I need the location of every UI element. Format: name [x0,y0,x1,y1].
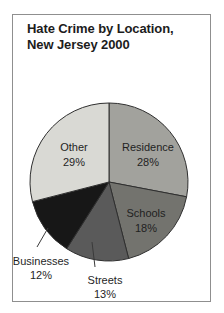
slice-label-streets-value: 13% [75,287,135,301]
slice-label-residence-name: Residence [116,140,180,155]
slice-label-businesses-name: Businesses [8,254,74,268]
slice-label-streets-name: Streets [75,273,135,287]
leader-line-businesses [37,228,48,247]
slice-label-streets: Streets 13% [75,273,135,301]
slice-label-schools: Schools 18% [116,206,176,236]
pie-slices [30,103,188,261]
slice-label-schools-value: 18% [116,221,176,236]
slice-label-residence: Residence 28% [116,140,180,170]
slice-label-schools-name: Schools [116,206,176,221]
slice-label-other-value: 29% [44,155,104,170]
slice-label-businesses: Businesses 12% [8,254,74,282]
slice-label-residence-value: 28% [116,155,180,170]
slice-label-other: Other 29% [44,140,104,170]
slice-label-other-name: Other [44,140,104,155]
slice-label-businesses-value: 12% [8,268,74,282]
